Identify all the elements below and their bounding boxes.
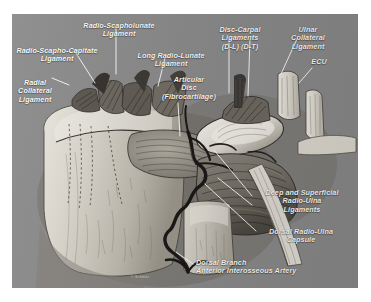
label-radio-scapholunate-ligament: Radio-Scapholunate Ligament bbox=[73, 22, 165, 39]
label-radio-scapho-capitate-ligament: Radio-Scapho-Capitate Ligament bbox=[12, 47, 105, 64]
label-radial-collateral-ligament: Radial Collateral Ligament bbox=[12, 79, 58, 104]
label-disc-carpal-ligaments: Disc-Carpal Ligaments (D-L) (D-T) bbox=[209, 26, 271, 51]
label-long-radio-lunate-ligament: Long Radio-Lunate Ligament bbox=[132, 52, 210, 69]
illustration-plate: Radio-Scapholunate Ligament Radio-Scapho… bbox=[12, 14, 358, 288]
label-articular-disc-fibrocartilage: Articular Disc (Fibrocartilage) bbox=[158, 76, 220, 101]
artist-signature: © Schmitz bbox=[131, 275, 149, 279]
label-dorsal-radio-ulna-capsule: Dorsal Radio-Ulna Capsule bbox=[259, 228, 343, 245]
anatomy-figure: Radio-Scapholunate Ligament Radio-Scapho… bbox=[0, 0, 371, 302]
label-ecu: ECU bbox=[305, 58, 333, 66]
label-ulnar-collateral-ligament: Ulnar Collateral Ligament bbox=[281, 26, 335, 51]
label-dorsal-branch-anterior-interosseous-artery: Dorsal Branch Anterior Interosseous Arte… bbox=[196, 259, 328, 276]
label-deep-and-superficial-radio-ulna-ligaments: Deep and Superficial Radio-Ulna Ligament… bbox=[257, 189, 347, 214]
